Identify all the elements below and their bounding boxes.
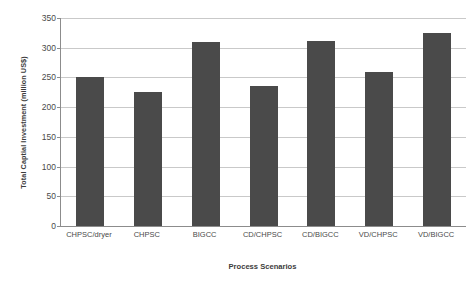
y-axis-tick-label: 300 [42,43,56,53]
bar-cd-chpsc[interactable] [250,86,278,226]
y-axis-tick-label: 50 [47,191,56,201]
bar-vd-bigcc[interactable] [423,33,451,226]
x-axis-tick-label: CD/BIGCC [291,230,349,239]
bars-group [61,18,466,226]
plot-area [60,18,466,226]
y-axis-tick-label: 350 [42,13,56,23]
y-axis-tick-labels: 050100150200250300350 [30,18,56,226]
x-axis-tick-label: VD/BIGCC [407,230,465,239]
y-axis-tickmark [57,226,61,227]
bar-slot [177,18,235,226]
bar-chpsc[interactable] [134,92,162,226]
bar-vd-chpsc[interactable] [365,72,393,226]
bar-slot [350,18,408,226]
y-axis-tick-label: 100 [42,162,56,172]
x-axis-tick-label: CD/CHPSC [234,230,292,239]
x-axis-tick-label: VD/CHPSC [349,230,407,239]
x-axis-title: Process Scenarios [60,262,465,271]
y-axis-title-text: Total Captial Investment (million US$) [19,56,28,188]
y-axis-tick-label: 200 [42,102,56,112]
bar-chart-figure: Total Captial Investment (million US$) 0… [0,0,474,292]
y-axis-tick-label: 0 [51,221,56,231]
y-axis-tick-label: 250 [42,72,56,82]
bar-slot [61,18,119,226]
bar-slot [119,18,177,226]
bar-bigcc[interactable] [192,42,220,226]
x-axis-tick-labels: CHPSC/dryerCHPSCBIGCCCD/CHPSCCD/BIGCCVD/… [60,230,465,239]
bar-slot [292,18,350,226]
bar-chpsc-dryer[interactable] [76,77,104,226]
bar-cd-bigcc[interactable] [307,41,335,226]
bar-slot [408,18,466,226]
x-axis-tick-label: CHPSC [118,230,176,239]
bar-slot [235,18,293,226]
x-axis-tick-label: CHPSC/dryer [60,230,118,239]
x-axis-line [61,226,466,227]
x-axis-tick-label: BIGCC [176,230,234,239]
y-axis-tick-label: 150 [42,132,56,142]
